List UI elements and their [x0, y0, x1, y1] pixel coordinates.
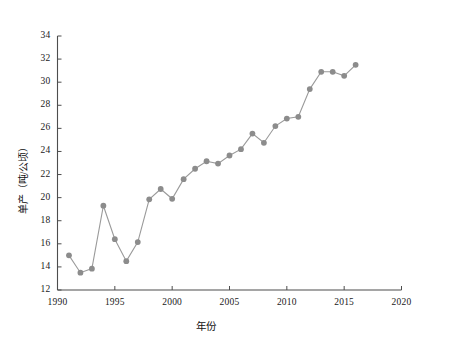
chart-figure: 121416182022242628303234 199019952000200… — [0, 0, 465, 353]
data-point-1994 — [100, 203, 106, 209]
data-point-2014 — [330, 69, 336, 75]
x-tick-label-2020: 2020 — [382, 297, 422, 307]
data-point-1995 — [112, 236, 118, 242]
y-tick-label-30: 30 — [29, 76, 51, 86]
tick-marks — [58, 36, 402, 290]
data-point-2013 — [318, 69, 324, 75]
data-point-1997 — [135, 239, 141, 245]
data-point-2008 — [261, 140, 267, 146]
data-point-2011 — [295, 114, 301, 120]
data-point-2005 — [227, 153, 233, 159]
y-tick-label-24: 24 — [29, 145, 51, 155]
data-point-2001 — [181, 176, 187, 182]
data-point-2002 — [192, 166, 198, 172]
x-tick-label-2015: 2015 — [324, 297, 364, 307]
data-point-2007 — [250, 131, 256, 137]
data-point-2016 — [353, 62, 359, 68]
y-tick-label-12: 12 — [29, 284, 51, 294]
x-tick-label-2005: 2005 — [210, 297, 250, 307]
data-point-2015 — [341, 73, 347, 79]
y-axis-title-text: 单产（吨/公顷） — [15, 142, 30, 215]
x-axis-title: 年份 — [196, 318, 216, 333]
data-point-2010 — [284, 116, 290, 122]
data-point-2000 — [169, 196, 175, 202]
y-tick-label-32: 32 — [29, 53, 51, 63]
y-tick-label-20: 20 — [29, 192, 51, 202]
data-point-markers — [66, 62, 358, 276]
data-point-2004 — [215, 161, 221, 167]
data-point-1993 — [89, 266, 95, 272]
y-tick-label-14: 14 — [29, 261, 51, 271]
data-point-1992 — [78, 270, 84, 276]
data-point-1991 — [66, 252, 72, 258]
y-tick-label-28: 28 — [29, 99, 51, 109]
data-point-1996 — [123, 258, 129, 264]
data-point-2009 — [272, 123, 278, 129]
axis-lines — [58, 36, 402, 290]
x-tick-label-1990: 1990 — [38, 297, 78, 307]
data-line — [69, 65, 356, 273]
y-tick-label-26: 26 — [29, 122, 51, 132]
y-tick-label-18: 18 — [29, 215, 51, 225]
x-tick-label-2000: 2000 — [152, 297, 192, 307]
data-point-2006 — [238, 146, 244, 152]
y-axis-title: 单产（吨/公顷） — [14, 118, 30, 238]
y-tick-label-34: 34 — [29, 30, 51, 40]
data-point-2012 — [307, 86, 313, 92]
data-point-2003 — [204, 158, 210, 164]
x-tick-label-2010: 2010 — [267, 297, 307, 307]
x-tick-label-1995: 1995 — [95, 297, 135, 307]
data-point-1999 — [158, 186, 164, 192]
y-tick-label-16: 16 — [29, 238, 51, 248]
y-tick-label-22: 22 — [29, 169, 51, 179]
data-point-1998 — [146, 196, 152, 202]
